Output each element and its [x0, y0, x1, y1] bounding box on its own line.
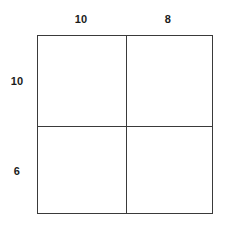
vertical-divider-line	[126, 35, 127, 214]
left-top-row-height-label: 10	[0, 76, 34, 87]
top-right-column-width-label: 8	[148, 14, 188, 25]
left-bottom-row-height-label: 6	[0, 166, 34, 177]
top-left-column-width-label: 10	[61, 14, 101, 25]
rectangle-partition-diagram: 10 8 10 6	[0, 0, 226, 228]
horizontal-divider-line	[37, 126, 213, 127]
outer-rectangle	[37, 35, 213, 214]
